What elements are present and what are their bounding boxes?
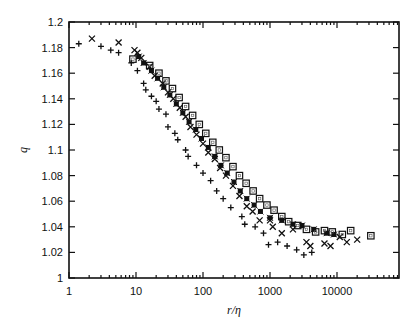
plus-marker <box>185 153 191 159</box>
plus-marker <box>228 205 234 211</box>
open-square-marker <box>223 154 229 160</box>
open-square-inner <box>198 123 200 125</box>
y-tick-label: 1.1 <box>48 144 63 156</box>
cross-marker <box>200 141 206 147</box>
plus-marker <box>143 87 149 93</box>
plus-marker <box>208 178 214 184</box>
open-square-marker <box>196 121 202 127</box>
open-square-inner <box>232 165 234 167</box>
open-square-inner <box>252 190 254 192</box>
open-square-inner <box>225 156 227 158</box>
cross-marker <box>244 203 250 209</box>
plus-marker <box>266 242 272 248</box>
cross-marker <box>337 234 343 240</box>
plus-marker <box>175 137 181 143</box>
plus-marker <box>284 243 290 249</box>
open-square-marker <box>271 207 277 213</box>
plus-marker <box>172 130 178 136</box>
cross-marker <box>354 237 360 243</box>
open-square-inner <box>132 58 134 60</box>
series-cross <box>89 36 360 249</box>
open-square-inner <box>281 215 283 217</box>
plus-marker <box>163 111 169 117</box>
cross-marker <box>328 243 334 249</box>
plus-marker <box>148 93 154 99</box>
open-square-marker <box>182 103 188 109</box>
open-square-marker <box>203 130 209 136</box>
plus-marker <box>220 196 226 202</box>
plus-marker <box>153 98 159 104</box>
series-filled-square <box>136 54 337 238</box>
open-square-marker <box>264 202 270 208</box>
plus-marker <box>183 147 189 153</box>
plus-marker <box>76 41 82 47</box>
cross-marker <box>321 240 327 246</box>
plus-marker <box>200 170 206 176</box>
cross-marker <box>344 239 350 245</box>
open-square-inner <box>273 209 275 211</box>
data-points <box>76 36 374 258</box>
open-square-marker <box>236 172 242 178</box>
plus-marker <box>156 106 162 112</box>
y-tick-label: 1 <box>57 272 63 284</box>
open-square-inner <box>258 197 260 199</box>
y-tick-label: 1.18 <box>42 42 63 54</box>
open-square-marker <box>189 112 195 118</box>
open-square-inner <box>370 235 372 237</box>
open-square-inner <box>266 204 268 206</box>
cross-marker <box>116 39 122 45</box>
plus-marker <box>108 47 114 53</box>
y-tick-label: 1.04 <box>42 221 63 233</box>
open-square-inner <box>287 220 289 222</box>
plus-marker <box>261 230 267 236</box>
plus-marker <box>194 162 200 168</box>
open-square-marker <box>347 227 353 233</box>
y-axis-label: q <box>16 147 30 153</box>
open-square-inner <box>218 149 220 151</box>
open-square-inner <box>212 141 214 143</box>
open-square-marker <box>368 233 374 239</box>
x-tick-label: 1000 <box>258 285 282 297</box>
open-square-marker <box>256 195 262 201</box>
open-square-inner <box>171 87 173 89</box>
cross-marker <box>279 230 285 236</box>
cross-marker <box>250 208 256 214</box>
x-axis-ticks: 110100100010000 <box>66 22 398 297</box>
y-tick-label: 1.16 <box>42 67 63 79</box>
open-square-inner <box>349 229 351 231</box>
cross-marker <box>89 36 95 42</box>
open-square-inner <box>238 174 240 176</box>
plus-marker <box>98 43 104 49</box>
plus-marker <box>165 124 171 130</box>
y-tick-label: 1.2 <box>48 16 63 28</box>
plus-marker <box>134 68 140 74</box>
plus-marker <box>116 50 122 56</box>
y-tick-label: 1.12 <box>42 118 63 130</box>
open-square-marker <box>250 188 256 194</box>
plus-marker <box>252 224 258 230</box>
open-square-inner <box>205 132 207 134</box>
plus-marker <box>275 239 281 245</box>
plus-marker <box>301 252 307 258</box>
x-tick-label: 10000 <box>322 285 353 297</box>
y-tick-label: 1.02 <box>42 246 63 258</box>
open-square-inner <box>184 105 186 107</box>
x-tick-label: 100 <box>194 285 212 297</box>
open-square-inner <box>245 182 247 184</box>
y-tick-label: 1.14 <box>42 93 63 105</box>
y-tick-label: 1.08 <box>42 170 63 182</box>
open-square-marker <box>243 180 249 186</box>
y-tick-label: 1.06 <box>42 195 63 207</box>
plus-marker <box>214 188 220 194</box>
open-square-marker <box>176 94 182 100</box>
cross-marker <box>307 243 313 249</box>
open-square-inner <box>191 114 193 116</box>
open-square-inner <box>178 96 180 98</box>
plus-marker <box>141 80 147 86</box>
plus-marker <box>294 247 300 253</box>
open-square-inner <box>297 224 299 226</box>
plus-marker <box>239 214 245 220</box>
x-tick-label: 10 <box>130 285 142 297</box>
x-axis-label: r/η <box>227 303 241 317</box>
scatter-chart: 110100100010000 11.021.041.061.081.11.12… <box>0 0 420 328</box>
